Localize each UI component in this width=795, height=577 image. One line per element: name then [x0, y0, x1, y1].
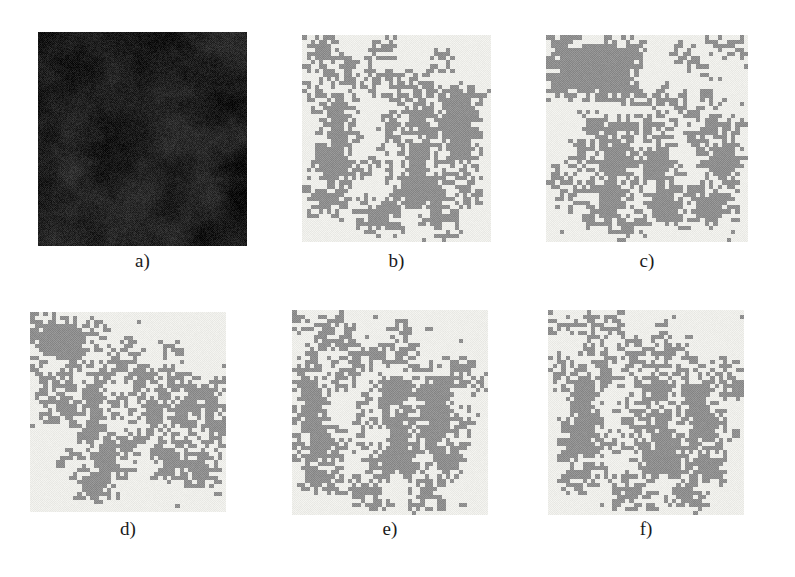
panel-e-caption: e)	[292, 518, 488, 540]
panel-c-caption: c)	[546, 250, 748, 272]
panel-f-canvas	[548, 310, 744, 515]
panel-f-segmentation	[548, 310, 744, 515]
panel-e-canvas	[292, 310, 488, 515]
panel-a-caption: a)	[38, 250, 247, 272]
panel-a-canvas	[38, 32, 247, 246]
panel-d-segmentation	[30, 312, 226, 512]
panel-a-original-image	[38, 32, 247, 246]
panel-b-canvas	[302, 35, 491, 242]
panel-e-segmentation	[292, 310, 488, 515]
panel-b-caption: b)	[302, 250, 491, 272]
panel-f-caption: f)	[548, 518, 744, 540]
panel-b-segmentation	[302, 35, 491, 242]
figure-root: a) b) c) d) e) f)	[0, 0, 795, 577]
panel-d-canvas	[30, 312, 226, 512]
panel-c-canvas	[546, 35, 748, 242]
panel-c-segmentation	[546, 35, 748, 242]
panel-d-caption: d)	[30, 518, 226, 540]
